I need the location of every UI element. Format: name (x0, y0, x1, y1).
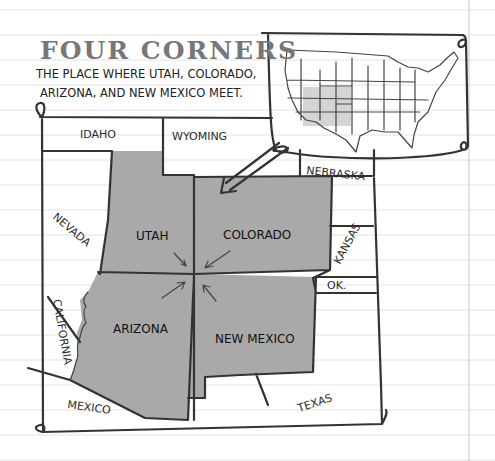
map-illustration: FOUR CORNERS THE PLACE WHERE UTAH, COLOR… (0, 0, 495, 461)
label-idaho: IDAHO (80, 128, 116, 141)
colorado-shape (194, 176, 332, 274)
label-mexico: MEXICO (67, 398, 112, 417)
label-utah: UTAH (136, 229, 168, 243)
page-title: FOUR CORNERS (40, 36, 298, 65)
four-corners-map-page: FOUR CORNERS THE PLACE WHERE UTAH, COLOR… (0, 0, 495, 461)
subtitle-line-2: ARIZONA, AND NEW MEXICO MEET. (40, 86, 243, 100)
label-texas: TEXAS (295, 391, 334, 415)
subtitle-line-1: THE PLACE WHERE UTAH, COLORADO, (35, 67, 256, 81)
utah-shape (100, 151, 194, 274)
arizona-shape (70, 272, 193, 420)
inset-highlight (303, 87, 351, 126)
label-wyoming: WYOMING (172, 130, 227, 143)
label-colorado: COLORADO (223, 228, 291, 242)
label-california: CALIFORNIA (50, 298, 74, 366)
label-arizona: ARIZONA (113, 322, 169, 336)
label-nevada: NEVADA (50, 210, 93, 249)
label-new-mexico: NEW MEXICO (215, 332, 295, 346)
label-oklahoma: OK. (327, 279, 346, 292)
